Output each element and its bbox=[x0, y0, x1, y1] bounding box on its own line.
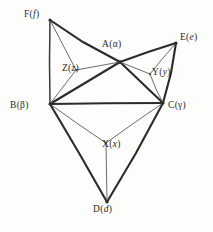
vertex-label-D: D(d) bbox=[93, 205, 112, 215]
edge-B-C bbox=[50, 103, 163, 104]
vertex-label-C-paren-close: ) bbox=[183, 100, 186, 110]
vertex-label-D-paren-close: ) bbox=[109, 204, 112, 214]
vertex-label-F: F(f) bbox=[24, 10, 39, 20]
edge-C-Y bbox=[150, 74, 163, 103]
edge-B-Z bbox=[50, 70, 76, 104]
vertex-label-B-letter: B bbox=[10, 100, 17, 110]
edge-C-D bbox=[107, 103, 163, 202]
vertex-label-B-paren-close: ) bbox=[25, 100, 28, 110]
vertex-label-C-letter: C bbox=[168, 100, 175, 110]
vertex-label-A-paren-close: ) bbox=[118, 39, 121, 49]
vertex-label-C: C(γ) bbox=[168, 101, 186, 111]
vertex-label-X-paren-close: ) bbox=[117, 139, 120, 149]
edge-B-X bbox=[50, 104, 106, 143]
edge-F-B bbox=[50, 20, 51, 104]
edge-D-X bbox=[106, 143, 107, 202]
vertex-label-E-paren-close: ) bbox=[194, 32, 197, 42]
figure-canvas: F(f) E(e) A(α) Z(z) Y(y) B(β) C(γ) X(x) … bbox=[0, 0, 213, 232]
vertex-label-B: B(β) bbox=[10, 101, 29, 111]
node-A bbox=[118, 60, 121, 63]
node-F bbox=[48, 18, 51, 21]
vertex-label-A: A(α) bbox=[102, 40, 121, 50]
vertex-label-Y-paren-close: ) bbox=[167, 67, 170, 77]
node-B bbox=[48, 102, 51, 105]
vertex-label-E: E(e) bbox=[180, 33, 198, 43]
node-E bbox=[174, 41, 177, 44]
node-Y bbox=[149, 73, 151, 75]
vertex-label-Y: Y(y) bbox=[152, 68, 171, 78]
edge-C-X bbox=[106, 103, 163, 143]
edge-B-D bbox=[50, 104, 107, 202]
vertex-label-X: X(x) bbox=[102, 140, 121, 150]
vertex-label-Z-paren-close: ) bbox=[76, 63, 79, 73]
vertex-label-Z: Z(z) bbox=[62, 64, 79, 74]
vertex-label-F-paren-close: ) bbox=[36, 9, 39, 19]
edge-A-Y bbox=[120, 62, 150, 74]
node-C bbox=[161, 101, 164, 104]
